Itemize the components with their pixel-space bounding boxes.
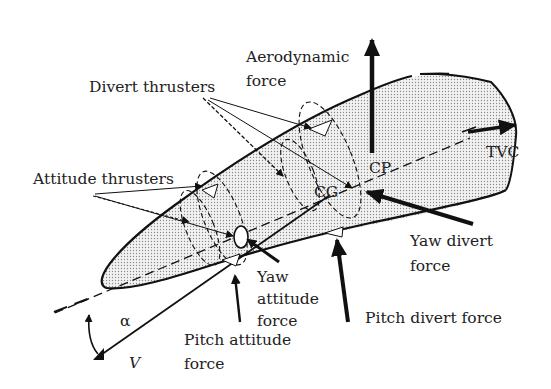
label-pitch-divert-force: Pitch divert force <box>365 309 502 327</box>
pitch-attitude-force-arrow <box>235 276 240 322</box>
label-yaw-divert-force-2: force <box>410 257 450 275</box>
label-cp: CP <box>369 159 391 177</box>
label-tvc: TVC <box>486 143 519 161</box>
pitch-divert-force-arrow <box>337 240 348 322</box>
label-attitude-thrusters: Attitude thrusters <box>32 170 174 188</box>
label-velocity: V <box>129 354 142 372</box>
alpha-arc <box>89 315 98 354</box>
yaw-attitude-thruster <box>234 226 248 248</box>
label-yaw-attitude-force-2: attitude <box>257 290 319 308</box>
label-aerodynamic-force-2: force <box>246 72 286 90</box>
label-yaw-attitude-force-1: Yaw <box>256 268 289 286</box>
divert-leader-1 <box>210 98 311 128</box>
label-yaw-attitude-force-3: force <box>257 312 297 330</box>
missile-force-diagram: Aerodynamic force Divert thrusters Attit… <box>0 0 551 389</box>
body-axis-tail <box>54 298 90 312</box>
label-yaw-divert-force-1: Yaw divert <box>409 232 494 250</box>
label-divert-thrusters: Divert thrusters <box>89 78 215 96</box>
label-cg: CG <box>314 183 338 201</box>
label-alpha: α <box>120 312 131 330</box>
label-aerodynamic-force-1: Aerodynamic <box>245 48 349 66</box>
label-pitch-attitude-force-2: force <box>184 355 224 373</box>
label-pitch-attitude-force-1: Pitch attitude <box>184 331 291 349</box>
